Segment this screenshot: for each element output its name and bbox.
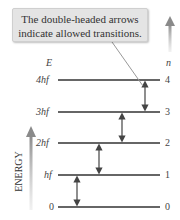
n-axis-header: n	[166, 57, 171, 68]
n-label-1: 1	[165, 169, 170, 180]
energy-axis-header: E	[46, 57, 52, 68]
callout-line-2: indicate allowed transitions.	[13, 26, 147, 40]
n-label-0: 0	[165, 201, 170, 212]
n-label-2: 2	[165, 137, 170, 148]
energy-label-3: 3hf	[36, 106, 49, 117]
callout-box: The double-headed arrows indicate allowe…	[12, 8, 148, 42]
energy-label-2: 2hf	[36, 137, 49, 148]
callout-line-1: The double-headed arrows	[13, 12, 147, 26]
n-label-3: 3	[165, 106, 170, 117]
energy-up-arrow-icon	[26, 126, 36, 210]
energy-label-4: 4hf	[36, 74, 49, 85]
energy-label-1: hf	[44, 169, 52, 180]
n-up-arrow-icon	[165, 16, 175, 52]
energy-label-0: 0	[49, 201, 54, 212]
energy-side-label: ENERGY	[13, 150, 24, 194]
n-label-4: 4	[165, 74, 170, 85]
